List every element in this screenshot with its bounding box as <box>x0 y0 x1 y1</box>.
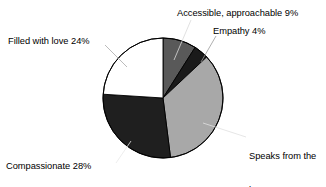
pie-slice-filled-with-love[interactable] <box>103 38 163 98</box>
pie-label-empathy: Empathy 4% <box>213 26 265 37</box>
pie-slices <box>103 38 223 158</box>
leader-line-compassionate <box>116 141 131 163</box>
pie-label-speaks-from-the-heart: Speaks from the heart 35% <box>249 129 316 187</box>
pie-label-speaks-from-the-heart-line2: heart 35% <box>249 185 316 187</box>
leader-line-empathy <box>201 36 216 62</box>
pie-label-filled-with-love: Filled with love 24% <box>8 36 90 47</box>
pie-label-accessible-approachable: Accessible, approachable 9% <box>177 8 298 19</box>
pie-slice-compassionate[interactable] <box>103 94 171 158</box>
pie-label-speaks-from-the-heart-line1: Speaks from the <box>249 151 316 162</box>
pie-chart: Accessible, approachable 9% Empathy 4% F… <box>0 0 326 187</box>
pie-label-compassionate: Compassionate 28% <box>6 161 91 172</box>
